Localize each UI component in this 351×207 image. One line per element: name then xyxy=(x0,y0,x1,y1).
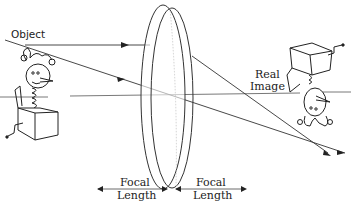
focal-length-right-line2: Length xyxy=(193,189,232,202)
focal-length-right: Focal Length xyxy=(175,176,247,202)
object-jack-in-the-box xyxy=(6,48,58,140)
real-image-label-line2: Image xyxy=(250,80,285,93)
arrow-right-icon xyxy=(241,186,247,192)
convex-lens xyxy=(141,5,193,189)
image-jack-in-the-box xyxy=(287,43,344,126)
focal-length-left-line1: Focal xyxy=(120,176,150,189)
arrow-icon xyxy=(323,150,331,156)
arrow-icon xyxy=(121,42,129,48)
lens-diagram: Object Real Image Focal Length Focal Len… xyxy=(0,0,351,207)
object-label: Object xyxy=(11,28,45,40)
arrow-icon xyxy=(117,77,125,82)
arrow-left-icon xyxy=(97,186,103,192)
focal-length-right-line1: Focal xyxy=(196,176,226,189)
focal-length-left-line2: Length xyxy=(117,189,156,202)
